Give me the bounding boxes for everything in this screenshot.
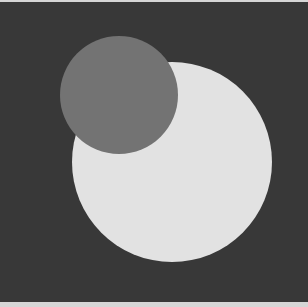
small-circle xyxy=(60,36,178,154)
image-frame xyxy=(0,2,308,302)
circles-scene xyxy=(0,2,308,302)
